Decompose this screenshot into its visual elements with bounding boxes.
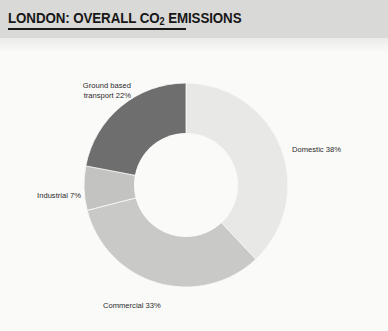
- title-band-fade: [0, 38, 388, 52]
- slice-label-ground-based-transport: Ground based transport 22%: [0, 81, 131, 101]
- chart-page: LONDON: OVERALL CO2 EMISSIONS Ground bas…: [0, 0, 388, 331]
- page-title-prefix: LONDON: OVERALL CO: [8, 10, 160, 26]
- donut-chart-svg: [84, 83, 288, 287]
- donut-hole: [134, 133, 238, 237]
- page-title-suffix: EMISSIONS: [165, 10, 242, 26]
- slice-label-commercial: Commercial 33%: [103, 301, 161, 311]
- slice-label-industrial: Industrial 7%: [0, 191, 81, 201]
- slice-label-domestic: Domestic 38%: [292, 145, 341, 155]
- donut-chart: [84, 83, 288, 287]
- page-title: LONDON: OVERALL CO2 EMISSIONS: [8, 11, 241, 27]
- title-underline: [8, 28, 186, 30]
- page-title-subscript: 2: [160, 16, 165, 27]
